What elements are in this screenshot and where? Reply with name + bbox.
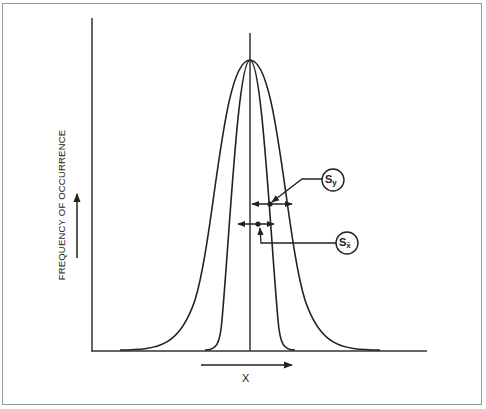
sy-leader-line: [272, 179, 322, 202]
sy-callout-label: Sy: [325, 174, 337, 187]
y-axis-label: FREQUENCY OF OCCURRENCE: [56, 130, 67, 281]
sy-subscript: y: [332, 178, 336, 187]
sy-point: [267, 201, 272, 206]
diagram-canvas: [0, 0, 486, 409]
sxbar-subscript: x̄: [346, 241, 350, 250]
sxbar-callout-label: Sx̄: [339, 237, 351, 250]
sxbar-point: [255, 221, 260, 226]
x-axis-label: X: [242, 372, 249, 384]
